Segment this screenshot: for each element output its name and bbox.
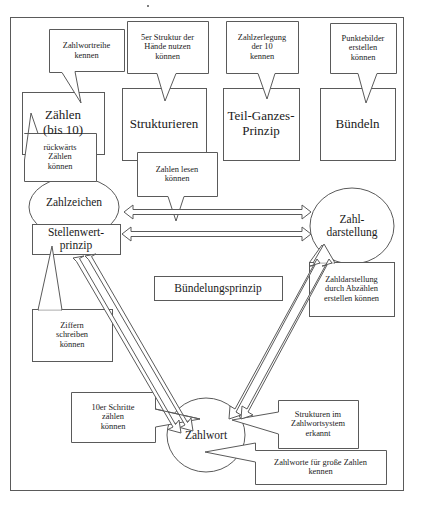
node-teil-ganzes-prinzip[interactable]: [224, 89, 300, 161]
callout-zahlwortreihe[interactable]: [50, 30, 125, 104]
arrow-zahlzeichen-to-zahldarstellung: [124, 205, 311, 219]
competence-structure-diagram: [0, 0, 423, 509]
node-stellenwertprinzip[interactable]: [33, 225, 121, 255]
callout-strukturen-zahlwort[interactable]: [232, 401, 359, 449]
arrow-zahldarstellung-to-zahlzeichen: [122, 227, 311, 241]
callout-ziffern-schreiben-tail: [38, 246, 62, 310]
callout-zahlworte-grosse[interactable]: [205, 443, 387, 485]
diagram-canvas: Zählen (bis 10) Strukturieren Teil-Ganze…: [0, 0, 423, 509]
callout-ziffern-schreiben-box[interactable]: [33, 310, 113, 362]
node-buendeln[interactable]: [321, 89, 396, 161]
node-buendelungsprinzip[interactable]: [155, 277, 283, 301]
callout-zahlzerlegung[interactable]: [227, 22, 299, 100]
